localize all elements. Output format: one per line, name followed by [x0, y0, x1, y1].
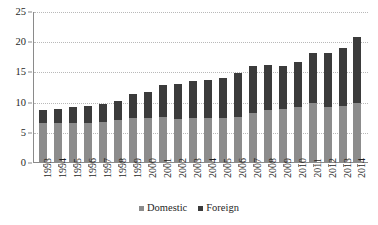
- x-tick-slot: 2000: [141, 164, 156, 202]
- y-tick-mark: [28, 102, 32, 103]
- bar-segment-domestic[interactable]: [114, 120, 122, 163]
- y-tick-label: 0: [21, 158, 26, 169]
- bar-segment-domestic[interactable]: [204, 118, 212, 163]
- bar-stack[interactable]: [249, 66, 257, 163]
- bar-stack[interactable]: [39, 110, 47, 163]
- bar-stack[interactable]: [114, 101, 122, 163]
- legend-entry[interactable]: Domestic: [139, 203, 187, 214]
- bar-segment-foreign[interactable]: [189, 81, 197, 118]
- bar-segment-domestic[interactable]: [144, 118, 152, 163]
- bar-slot: [350, 12, 365, 163]
- bar-slot: [36, 12, 51, 163]
- x-tick-slot: 2007: [245, 164, 260, 202]
- bar-segment-domestic[interactable]: [234, 117, 242, 164]
- bar-slot: [66, 12, 81, 163]
- bar-segment-domestic[interactable]: [84, 123, 92, 163]
- bar-stack[interactable]: [219, 78, 227, 163]
- bar-stack[interactable]: [174, 84, 182, 163]
- x-tick-slot: 1999: [126, 164, 141, 202]
- bar-slot: [96, 12, 111, 163]
- bar-slot: [81, 12, 96, 163]
- legend-swatch-icon: [198, 206, 203, 211]
- bar-segment-domestic[interactable]: [279, 109, 287, 163]
- bar-segment-foreign[interactable]: [129, 94, 137, 119]
- bar-segment-domestic[interactable]: [159, 117, 167, 164]
- y-tick-mark: [28, 72, 32, 73]
- bar-segment-foreign[interactable]: [144, 92, 152, 119]
- bar-segment-foreign[interactable]: [264, 65, 272, 110]
- bar-segment-foreign[interactable]: [69, 107, 77, 123]
- bar-slot: [335, 12, 350, 163]
- bar-segment-foreign[interactable]: [234, 73, 242, 116]
- bar-stack[interactable]: [234, 73, 242, 163]
- bar-segment-domestic[interactable]: [249, 113, 257, 163]
- bar-segment-foreign[interactable]: [204, 80, 212, 117]
- bar-stack[interactable]: [84, 106, 92, 163]
- bar-segment-domestic[interactable]: [309, 103, 317, 163]
- bar-segment-domestic[interactable]: [189, 118, 197, 163]
- bar-segment-foreign[interactable]: [99, 104, 107, 122]
- bar-slot: [260, 12, 275, 163]
- x-tick-slot: 2006: [230, 164, 245, 202]
- x-tick-slot: 2011: [305, 164, 320, 202]
- bar-segment-foreign[interactable]: [324, 53, 332, 107]
- bar-segment-foreign[interactable]: [39, 110, 47, 123]
- bar-segment-foreign[interactable]: [339, 48, 347, 106]
- bar-segment-foreign[interactable]: [309, 53, 317, 103]
- y-tick-mark: [28, 42, 32, 43]
- legend-entry[interactable]: Foreign: [198, 203, 239, 214]
- x-tick-slot: 1994: [51, 164, 66, 202]
- bar-segment-foreign[interactable]: [54, 109, 62, 123]
- bar-segment-foreign[interactable]: [249, 66, 257, 113]
- bar-segment-foreign[interactable]: [114, 101, 122, 120]
- x-tick-slot: 1998: [111, 164, 126, 202]
- legend-swatch-icon: [139, 206, 144, 211]
- chart-legend: DomesticForeign: [0, 203, 378, 214]
- x-tick-slot: 1993: [36, 164, 51, 202]
- bar-stack[interactable]: [309, 53, 317, 163]
- bar-slot: [111, 12, 126, 163]
- bar-stack[interactable]: [99, 104, 107, 163]
- x-tick-slot: 1995: [66, 164, 81, 202]
- bar-segment-domestic[interactable]: [264, 110, 272, 163]
- bar-stack[interactable]: [144, 92, 152, 163]
- bar-segment-foreign[interactable]: [219, 78, 227, 118]
- x-tick-slot: 1996: [81, 164, 96, 202]
- bar-segment-domestic[interactable]: [219, 118, 227, 163]
- bar-stack[interactable]: [54, 109, 62, 163]
- bar-segment-domestic[interactable]: [294, 107, 302, 163]
- bar-segment-domestic[interactable]: [174, 119, 182, 163]
- bar-segment-domestic[interactable]: [129, 118, 137, 163]
- x-tick-slot: 1997: [96, 164, 111, 202]
- bar-stack[interactable]: [279, 66, 287, 163]
- bar-stack[interactable]: [69, 107, 77, 163]
- bar-segment-foreign[interactable]: [159, 85, 167, 116]
- bar-segment-domestic[interactable]: [353, 103, 361, 163]
- bar-slot: [275, 12, 290, 163]
- bars-layer: [33, 12, 368, 163]
- bar-segment-foreign[interactable]: [279, 66, 287, 109]
- bar-stack[interactable]: [129, 94, 137, 163]
- y-tick-label: 20: [16, 37, 27, 48]
- bar-stack[interactable]: [189, 81, 197, 163]
- bar-slot: [51, 12, 66, 163]
- x-tick-slot: 2001: [156, 164, 171, 202]
- bar-slot: [156, 12, 171, 163]
- bar-segment-domestic[interactable]: [99, 122, 107, 163]
- bar-stack[interactable]: [294, 62, 302, 163]
- bar-stack[interactable]: [339, 48, 347, 163]
- bar-stack[interactable]: [159, 85, 167, 163]
- bar-stack[interactable]: [204, 80, 212, 163]
- bar-segment-foreign[interactable]: [353, 37, 361, 103]
- bar-segment-foreign[interactable]: [174, 84, 182, 119]
- bar-stack[interactable]: [264, 65, 272, 163]
- bar-segment-foreign[interactable]: [84, 106, 92, 123]
- x-axis: 1993199419951996199719981999200020012002…: [33, 164, 368, 202]
- bar-stack[interactable]: [353, 37, 361, 163]
- x-tick-slot: 2010: [290, 164, 305, 202]
- bar-segment-domestic[interactable]: [324, 107, 332, 163]
- bar-stack[interactable]: [324, 53, 332, 163]
- y-tick-mark: [28, 12, 32, 13]
- bar-segment-foreign[interactable]: [294, 62, 302, 108]
- bar-segment-domestic[interactable]: [339, 106, 347, 163]
